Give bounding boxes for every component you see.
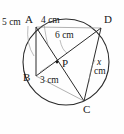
vertex-label-d: D — [104, 14, 112, 24]
vertex-label-p: P — [62, 58, 68, 68]
measurement-label-ap: 4 cm — [41, 15, 60, 25]
leader-bp — [40, 65, 50, 72]
vertex-label-c: C — [83, 104, 90, 114]
measurement-label-dc-unit: cm — [94, 66, 106, 76]
vertex-label-a: A — [25, 14, 33, 24]
geometry-figure: A D B C P 5 cm 4 cm 6 cm 3 cm x cm — [0, 0, 124, 134]
leader-pd — [60, 40, 67, 53]
measurement-label-bp: 3 cm — [40, 75, 59, 85]
measurement-label-pd: 6 cm — [55, 30, 74, 40]
vertex-label-b: B — [23, 72, 30, 82]
measurement-label-ab: 5 cm — [2, 17, 21, 27]
point-p-marker — [56, 61, 59, 64]
